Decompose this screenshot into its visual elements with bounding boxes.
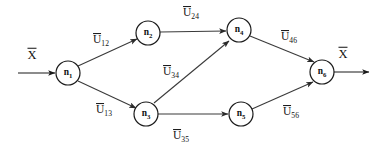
edges-group: [78, 31, 314, 114]
edge-label-e24: U24: [183, 7, 199, 21]
edge-label-e12: U12: [93, 34, 109, 48]
edge-label-e35: U35: [173, 130, 189, 144]
edge-label-e46: U46: [281, 31, 297, 45]
edge-label-e34: U34: [163, 66, 179, 80]
node-label-n2: n2: [144, 28, 153, 40]
input-label: X: [27, 49, 36, 62]
edge-label-e56: U56: [283, 106, 299, 120]
node-label-n5: n5: [237, 109, 246, 121]
edge-label-e13: U13: [96, 104, 112, 118]
node-label-n4: n4: [235, 25, 244, 37]
node-label-n6: n6: [318, 67, 327, 79]
node-label-n1: n1: [64, 68, 73, 80]
edge-e24: [160, 31, 226, 32]
diagram-canvas: U12U13U24U34U35U46U56XXn1n2n3n4n5n6: [0, 0, 379, 153]
output-label: X: [338, 48, 347, 61]
node-label-n3: n3: [142, 109, 151, 121]
